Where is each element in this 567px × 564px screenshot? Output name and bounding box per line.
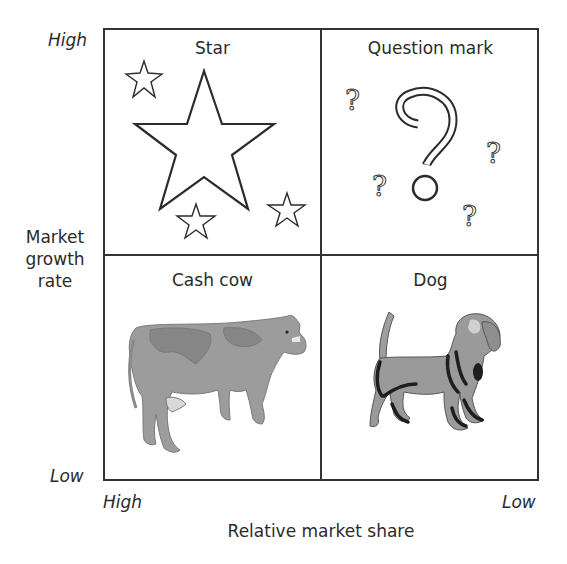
dog-icon [0,0,567,564]
